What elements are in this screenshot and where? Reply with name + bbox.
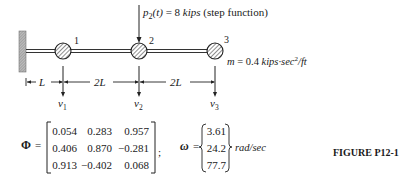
phi-cell: 0.957: [124, 125, 149, 137]
dof-label-2: v2: [134, 97, 143, 112]
fixed-wall-support: [19, 31, 26, 72]
phi-equals: =: [35, 139, 41, 151]
mass-3-label: 3: [224, 34, 229, 45]
omega-unit: rad/sec: [235, 142, 266, 153]
phi-cell: 0.913: [52, 159, 77, 171]
omega-value: 77.7: [207, 159, 227, 171]
dimension-2L-b: 2L: [170, 76, 182, 88]
phi-cell: 0.054: [52, 125, 77, 137]
dof-label-3: v3: [210, 97, 219, 112]
figure-caption: FIGURE P12-1: [333, 147, 399, 158]
beam: [26, 50, 210, 53]
mass-value-label: m = 0.4 kips·sec2/ft: [227, 55, 308, 67]
phi-cell: −0.402: [81, 159, 112, 171]
mass-2-label: 2: [149, 35, 154, 46]
mass-1: 1: [55, 35, 79, 59]
frequency-vector: ω = 3.61 24.2 77.7 rad/sec: [180, 124, 266, 172]
phi-cell: 0.068: [124, 159, 149, 171]
dimension-lines: [26, 78, 215, 86]
omega-value: 24.2: [207, 142, 226, 154]
mass-1-label: 1: [74, 35, 79, 46]
phi-cell: −0.281: [118, 142, 149, 154]
dimension-L: L: [38, 76, 45, 88]
phi-symbol: Φ: [21, 138, 31, 152]
phi-separator: ;: [158, 146, 161, 158]
mass-3: 3: [207, 34, 229, 59]
dof-label-1: v1: [58, 97, 67, 112]
load-arrow-icon: [137, 5, 142, 43]
phi-cell: 0.283: [87, 125, 112, 137]
dimension-2L-a: 2L: [94, 76, 106, 88]
phi-cell: 0.870: [87, 142, 112, 154]
load-label: p2(t) = 8 kips (step function): [142, 6, 268, 21]
omega-equals: =: [193, 140, 199, 152]
structural-dynamics-figure: 1 2 3 p2(t) = 8 kips (step function) m =…: [0, 0, 402, 182]
mode-shape-matrix: Φ = 0.054 0.283 0.957 0.406 0.870 −0.281…: [21, 122, 161, 173]
phi-cell: 0.406: [52, 142, 77, 154]
mass-2: 2: [131, 35, 154, 59]
omega-symbol: ω: [180, 139, 189, 153]
omega-value: 3.61: [207, 125, 226, 137]
